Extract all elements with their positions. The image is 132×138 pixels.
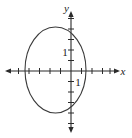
coordinate-plane-graphic: y x 1 1 [0,0,132,138]
x-axis-label: x [120,65,126,77]
y-axis-bottom-arrowhead [68,127,73,133]
x-unit-label: 1 [75,76,81,88]
graph-figure: y x 1 1 [0,0,132,138]
y-unit-label: 1 [62,46,68,58]
ellipse-curve [25,27,86,113]
x-axis-right-arrowhead [114,68,120,73]
y-axis-label: y [63,2,69,14]
y-axis-top-arrowhead [68,11,73,17]
x-axis-left-arrowhead [5,68,11,73]
